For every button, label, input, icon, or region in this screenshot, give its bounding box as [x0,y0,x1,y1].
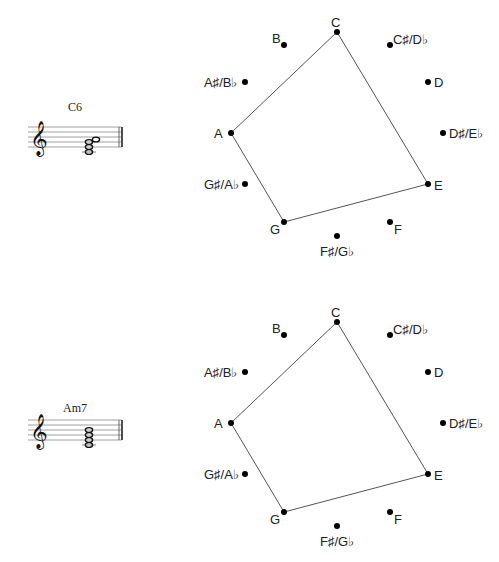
pitch-class-circle: C C♯/D♭ D D♯/E♭ E F F♯/G♭ G G♯/A♭ A A♯/B… [0,290,499,562]
svg-text:D: D [434,75,443,90]
svg-text:G♯/A♭: G♯/A♭ [204,177,239,192]
svg-text:C♯/D♭: C♯/D♭ [393,32,428,47]
svg-text:A♯/B♭: A♯/B♭ [204,75,237,90]
svg-text:F♯/G♭: F♯/G♭ [320,244,354,259]
svg-text:F: F [394,222,402,237]
pitch-class-circle: C C♯/D♭ D D♯/E♭ E F F♯/G♭ G G♯/A♭ A A♯/B… [0,0,499,290]
svg-text:C: C [331,305,340,320]
svg-text:C♯/D♭: C♯/D♭ [393,322,428,337]
svg-text:B: B [272,31,281,46]
svg-text:A: A [214,126,223,141]
svg-text:D: D [434,365,443,380]
svg-text:E: E [434,178,443,193]
diagram-am7: Am7 𝄞 [0,290,499,562]
svg-text:G: G [270,222,280,237]
svg-text:C: C [331,15,340,30]
svg-text:F♯/G♭: F♯/G♭ [320,534,354,549]
svg-text:B: B [272,321,281,336]
svg-text:F: F [394,512,402,527]
svg-text:D♯/E♭: D♯/E♭ [449,416,483,431]
svg-text:D♯/E♭: D♯/E♭ [449,126,483,141]
svg-text:E: E [434,468,443,483]
svg-text:A: A [214,416,223,431]
diagram-c6: C6 𝄞 [0,0,499,290]
svg-text:G: G [270,512,280,527]
svg-text:G♯/A♭: G♯/A♭ [204,467,239,482]
svg-text:A♯/B♭: A♯/B♭ [204,365,237,380]
